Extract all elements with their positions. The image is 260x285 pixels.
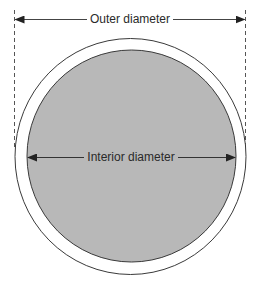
outer-diameter-label: Outer diameter: [87, 12, 173, 26]
interior-diameter-label-wrap: Interior diameter: [0, 151, 260, 163]
interior-diameter-label: Interior diameter: [84, 150, 177, 164]
pipe-cross-section-diagram: [0, 0, 260, 285]
outer-diameter-label-wrap: Outer diameter: [0, 13, 260, 25]
